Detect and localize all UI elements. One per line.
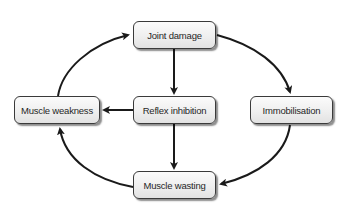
node-label: Immobilisation: [263, 105, 321, 116]
arrow-immobilisation-to-wasting: [221, 125, 290, 184]
node-label: Muscle wasting: [143, 180, 205, 191]
arrow-joint-to-immobilisation: [217, 35, 290, 92]
node-label: Reflex inhibition: [143, 105, 207, 116]
node-muscle-wasting: Muscle wasting: [133, 171, 216, 199]
arrow-wasting-to-weakness: [60, 129, 133, 187]
node-label: Joint damage: [147, 30, 202, 41]
node-reflex-inhibition: Reflex inhibition: [133, 96, 216, 124]
node-label: Muscle weakness: [21, 105, 93, 116]
diagram-canvas: Joint damage Muscle weakness Reflex inhi…: [0, 0, 348, 211]
node-muscle-weakness: Muscle weakness: [14, 96, 100, 124]
node-immobilisation: Immobilisation: [250, 96, 333, 124]
arrow-weakness-to-joint: [58, 35, 128, 96]
node-joint-damage: Joint damage: [133, 21, 216, 49]
